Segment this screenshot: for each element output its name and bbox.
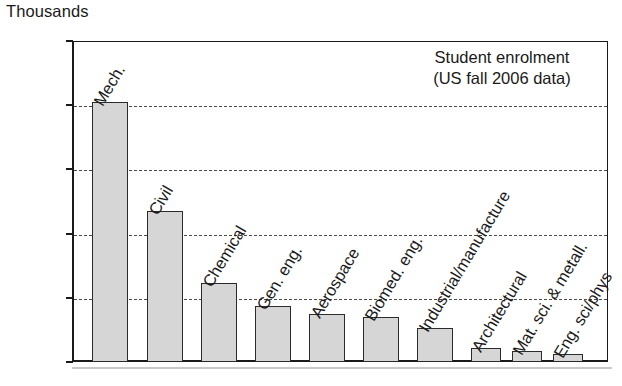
bar-1 [147,211,183,362]
bar-3 [255,306,291,362]
bar-chart: Thousands 020406080100 Mech.CivilChemica… [0,0,622,386]
bar-0 [92,102,128,362]
chart-annotation: Student enrolment (US fall 2006 data) [402,47,602,89]
y-axis-unit-label: Thousands [6,2,89,21]
bar-2 [201,283,237,362]
annotation-line-2: (US fall 2006 data) [402,68,602,89]
bar-5 [363,317,399,362]
annotation-line-1: Student enrolment [402,47,602,68]
bar-4 [309,314,345,362]
bar-6 [417,328,453,362]
baseline-shadow [72,367,612,369]
